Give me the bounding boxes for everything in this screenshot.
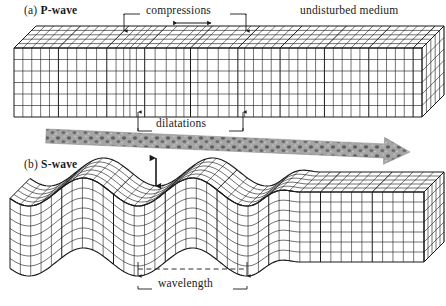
seismic-wave-figure (0, 0, 446, 306)
s-wave-prefix: (b) (24, 158, 38, 170)
p-wave-title: (a) P-wave (24, 4, 77, 16)
wavelength-label: wavelength (158, 277, 213, 289)
compressions-label: compressions (146, 4, 211, 16)
p-wave-prefix: (a) (24, 4, 37, 16)
p-wave-name: P-wave (40, 4, 77, 16)
dilatations-label: dilatations (156, 117, 206, 129)
p-wave-block (14, 26, 444, 117)
s-wave-name: S-wave (41, 158, 77, 170)
s-wave-title: (b) S-wave (24, 158, 77, 170)
undisturbed-medium-label: undisturbed medium (300, 4, 398, 16)
